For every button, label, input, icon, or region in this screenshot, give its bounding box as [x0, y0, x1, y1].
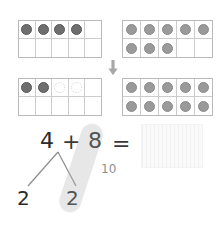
- equation-left-term: 4: [40, 130, 54, 152]
- ten-frame-row: [123, 79, 212, 97]
- counter-filled: [38, 24, 49, 35]
- equation-right-term: 8: [88, 130, 102, 152]
- counter-filled: [144, 101, 155, 112]
- ten-frame-cell[interactable]: [85, 97, 101, 115]
- counter-filled: [126, 101, 137, 112]
- ten-frame-cell[interactable]: [123, 97, 141, 115]
- ten-frame-bottom-right[interactable]: [122, 78, 213, 116]
- answer-input-box[interactable]: [141, 124, 203, 168]
- ten-frame-cell[interactable]: [36, 21, 53, 39]
- counter-filled: [54, 24, 65, 35]
- ten-frame-cell[interactable]: [195, 97, 212, 115]
- arrow-down-icon: [108, 60, 118, 76]
- ten-frame-cell[interactable]: [85, 39, 101, 57]
- ten-frame-cell[interactable]: [36, 97, 53, 115]
- ten-frame-cell[interactable]: [141, 79, 159, 97]
- ten-frame-cell[interactable]: [177, 79, 195, 97]
- ten-frame-row: [123, 39, 212, 57]
- ten-frame-cell[interactable]: [19, 39, 36, 57]
- ten-frame-cell[interactable]: [141, 21, 159, 39]
- ten-frame-cell[interactable]: [195, 39, 212, 57]
- counter-filled: [144, 82, 155, 93]
- ten-frame-cell[interactable]: [141, 39, 159, 57]
- ten-frame-cell[interactable]: [159, 97, 177, 115]
- ten-frame-cell[interactable]: [123, 79, 141, 97]
- counter-filled: [180, 101, 191, 112]
- ten-frame-cell[interactable]: [195, 79, 212, 97]
- ten-frame-row: [19, 39, 101, 57]
- counter-filled: [198, 82, 209, 93]
- ten-frame-cell[interactable]: [69, 97, 86, 115]
- ten-frame-cell[interactable]: [159, 79, 177, 97]
- ten-frame-bottom-left[interactable]: [18, 78, 102, 116]
- counter-filled: [144, 24, 155, 35]
- counter-removed-outline: [71, 82, 82, 93]
- number-bond-part-right: 2: [66, 188, 79, 208]
- counter-filled: [126, 43, 137, 54]
- ten-frame-cell[interactable]: [195, 21, 212, 39]
- ten-frame-cell[interactable]: [52, 39, 69, 57]
- ten-frame-cell[interactable]: [19, 97, 36, 115]
- number-bond-part-left: 2: [17, 188, 30, 208]
- ten-frame-cell[interactable]: [159, 21, 177, 39]
- ten-frame-cell[interactable]: [123, 39, 141, 57]
- ten-frame-cell[interactable]: [69, 21, 86, 39]
- ten-frame-cell[interactable]: [69, 39, 86, 57]
- counter-filled: [162, 43, 173, 54]
- counter-filled: [126, 82, 137, 93]
- counter-filled: [144, 43, 155, 54]
- counter-filled: [180, 24, 191, 35]
- counter-filled: [21, 24, 32, 35]
- ten-frame-top-right[interactable]: [122, 20, 213, 58]
- counter-filled: [38, 82, 49, 93]
- counter-filled: [162, 101, 173, 112]
- ten-frame-cell[interactable]: [85, 21, 101, 39]
- ten-frame-row: [123, 97, 212, 115]
- ten-frame-row: [19, 79, 101, 97]
- tens-annotation-label: 10: [101, 163, 116, 175]
- counter-filled: [126, 24, 137, 35]
- ten-frame-cell[interactable]: [52, 97, 69, 115]
- counter-filled: [180, 82, 191, 93]
- ten-frame-row: [19, 97, 101, 115]
- ten-frame-cell[interactable]: [123, 21, 141, 39]
- counter-filled: [162, 82, 173, 93]
- ten-frame-cell[interactable]: [177, 97, 195, 115]
- ten-frame-row: [123, 21, 212, 39]
- ten-frame-cell[interactable]: [69, 79, 86, 97]
- counter-filled: [71, 24, 82, 35]
- counter-filled: [162, 24, 173, 35]
- ten-frame-cell[interactable]: [19, 79, 36, 97]
- ten-frame-cell[interactable]: [159, 39, 177, 57]
- ten-frame-cell[interactable]: [85, 79, 101, 97]
- ten-frame-cell[interactable]: [52, 21, 69, 39]
- ten-frame-top-left[interactable]: [18, 20, 102, 58]
- ten-frame-cell[interactable]: [19, 21, 36, 39]
- ten-frame-cell[interactable]: [177, 39, 195, 57]
- ten-frame-cell[interactable]: [52, 79, 69, 97]
- ten-frame-cell[interactable]: [141, 97, 159, 115]
- counter-filled: [21, 82, 32, 93]
- ten-frame-cell[interactable]: [177, 21, 195, 39]
- counter-removed-outline: [54, 82, 65, 93]
- counter-filled: [198, 101, 209, 112]
- ten-frame-cell[interactable]: [36, 39, 53, 57]
- counter-filled: [198, 24, 209, 35]
- ten-frame-row: [19, 21, 101, 39]
- ten-frame-cell[interactable]: [36, 79, 53, 97]
- worksheet-canvas: 4 + 8 = 2 2 10: [0, 0, 222, 225]
